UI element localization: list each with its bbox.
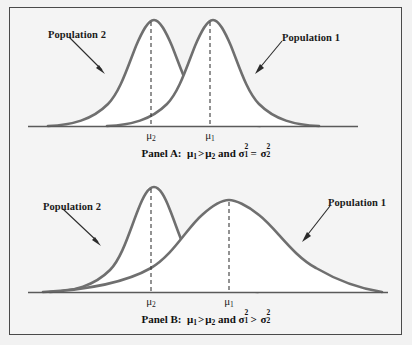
panel-b-leader-population-2 bbox=[63, 209, 101, 246]
panel-b-annotation-population-1: Population 1 bbox=[328, 197, 386, 208]
panel-b-caption-conjunction: and bbox=[218, 313, 236, 325]
panel-b-caption: Panel B: μ1>μ2 and σ21> σ22 bbox=[10, 313, 403, 327]
figure-border-frame: Population 2 Population 1 μ2 μ1 Panel A:… bbox=[9, 7, 402, 335]
panel-b-plot bbox=[10, 176, 403, 308]
panel-a-caption: Panel A: μ1>μ2 and σ21= σ22 bbox=[10, 147, 403, 161]
panel-a-leader-population-2 bbox=[69, 37, 105, 74]
panel-a-tick-mu2: μ2 bbox=[146, 129, 156, 143]
panel-a-caption-prefix: Panel A: bbox=[141, 147, 181, 159]
panel-b-annotation-population-2: Population 2 bbox=[43, 201, 101, 212]
panel-b-caption-prefix: Panel B: bbox=[141, 313, 181, 325]
panel-b-leader-population-1 bbox=[302, 206, 330, 242]
panel-a-tick-mu1: μ1 bbox=[205, 129, 215, 143]
panel-a-caption-mean-relation: μ1>μ2 bbox=[184, 147, 218, 159]
figure-container: Population 2 Population 1 μ2 μ1 Panel A:… bbox=[0, 0, 412, 345]
panel-b-curve-population-1 bbox=[43, 200, 382, 292]
panel-b-tick-mu2: μ2 bbox=[146, 295, 156, 309]
panel-a-leader-population-1 bbox=[255, 41, 282, 74]
panel-b: Population 2 Population 1 μ2 μ1 Panel B:… bbox=[10, 176, 403, 336]
panel-a: Population 2 Population 1 μ2 μ1 Panel A:… bbox=[10, 8, 403, 176]
panel-b-caption-variance-relation: σ21> σ22 bbox=[239, 313, 272, 325]
panel-b-tick-mu1: μ1 bbox=[224, 295, 234, 309]
panel-a-annotation-population-2: Population 2 bbox=[48, 29, 106, 40]
panel-b-caption-mean-relation: μ1>μ2 bbox=[184, 313, 218, 325]
panel-a-annotation-population-1: Population 1 bbox=[282, 32, 340, 43]
panel-a-caption-variance-relation: σ21= σ22 bbox=[239, 147, 272, 159]
panel-a-caption-conjunction: and bbox=[218, 147, 236, 159]
